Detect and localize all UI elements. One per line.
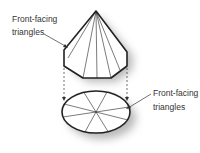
label-bottom-right-line2: triangles bbox=[153, 102, 185, 112]
projected-ellipse bbox=[62, 91, 130, 133]
leader-arrow-right bbox=[126, 94, 151, 109]
label-top-left-line1: Front-facing bbox=[12, 14, 58, 24]
cone bbox=[64, 11, 127, 78]
label-top-left-line2: triangles bbox=[12, 27, 44, 37]
leader-arrow-left bbox=[44, 34, 68, 48]
label-bottom-right: Front-facing triangles bbox=[153, 88, 199, 112]
label-top-left: Front-facing triangles bbox=[12, 14, 58, 37]
label-bottom-right-line1: Front-facing bbox=[153, 88, 199, 98]
diagram-canvas: Front-facing triangles Front-facing tria… bbox=[0, 0, 200, 153]
